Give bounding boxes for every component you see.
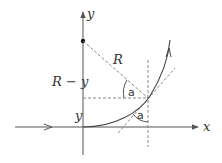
x-axis-label: x <box>203 119 211 134</box>
angle-label-bottom: a <box>137 109 144 122</box>
trajectory-diagram: y x R a a R − y y <box>0 0 222 163</box>
radius-label: R <box>112 52 123 67</box>
y-axis-label: y <box>86 6 95 21</box>
r-minus-y-label: R − y <box>51 74 89 89</box>
angle-arc-top <box>123 80 127 98</box>
angle-label-top: a <box>128 86 135 99</box>
y-height-label: y <box>74 108 83 123</box>
radius-line <box>83 41 148 98</box>
